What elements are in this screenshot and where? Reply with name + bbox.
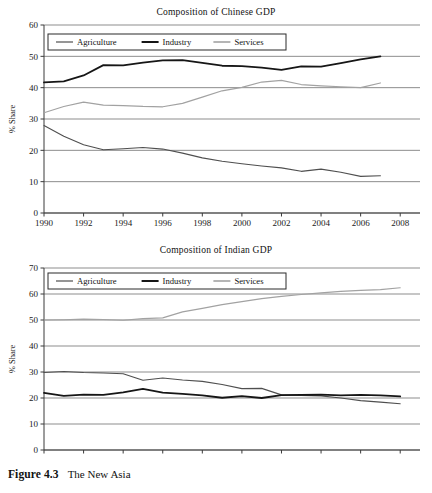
x-tick-label: 1992 — [75, 218, 93, 228]
x-tick-label: 2000 — [233, 218, 252, 228]
series-line-agriculture — [44, 371, 400, 403]
chart-title-china: Composition of Chinese GDP — [0, 7, 432, 17]
series-line-agriculture — [44, 126, 380, 177]
y-tick-label: 10 — [29, 419, 39, 429]
x-tick-label: 1990 — [35, 218, 54, 228]
y-axis-label: % Share — [7, 104, 17, 133]
y-tick-label: 0 — [34, 208, 39, 218]
x-tick-label: 1996 — [154, 218, 173, 228]
y-tick-label: 40 — [29, 341, 39, 351]
series-line-industry — [44, 389, 400, 398]
series-line-industry — [44, 56, 380, 82]
y-tick-label: 70 — [29, 263, 39, 273]
y-tick-label: 30 — [29, 367, 39, 377]
y-tick-label: 50 — [29, 315, 39, 325]
y-tick-label: 60 — [29, 20, 39, 30]
x-tick-label: 2008 — [391, 218, 410, 228]
chart-title-india: Composition of Indian GDP — [0, 245, 432, 255]
y-axis-label: % Share — [7, 344, 17, 373]
figure-caption: Figure 4.3The New Asia — [8, 468, 428, 480]
figure-caption-text: The New Asia — [68, 468, 131, 480]
series-line-services — [44, 288, 400, 321]
y-tick-label: 20 — [29, 393, 39, 403]
legend-label-agriculture: Agriculture — [77, 37, 117, 47]
y-tick-label: 10 — [29, 177, 39, 187]
figure-container: Composition of Chinese GDP 0102030405060… — [0, 0, 432, 493]
legend-label-industry: Industry — [163, 276, 192, 286]
y-tick-label: 30 — [29, 114, 39, 124]
x-tick-label: 2006 — [352, 218, 371, 228]
y-tick-label: 50 — [29, 52, 39, 62]
legend-label-industry: Industry — [163, 37, 192, 47]
y-tick-label: 20 — [29, 146, 39, 156]
x-tick-label: 2004 — [312, 218, 331, 228]
figure-caption-label: Figure 4.3 — [8, 468, 59, 480]
x-tick-label: 1994 — [114, 218, 133, 228]
y-tick-label: 60 — [29, 289, 39, 299]
legend-label-agriculture: Agriculture — [77, 276, 117, 286]
x-tick-label: 1998 — [193, 218, 212, 228]
chart-panel-china: Composition of Chinese GDP 0102030405060… — [0, 0, 432, 240]
series-line-services — [44, 80, 380, 112]
y-tick-label: 0 — [34, 445, 39, 455]
legend-label-services: Services — [234, 276, 264, 286]
y-tick-label: 40 — [29, 83, 39, 93]
legend-label-services: Services — [234, 37, 264, 47]
x-tick-label: 2002 — [272, 218, 290, 228]
chart-svg-china: 0102030405060199019921994199619982000200… — [0, 0, 432, 232]
chart-svg-india: 0102030405060701990199219941996199820002… — [0, 240, 432, 455]
chart-panel-india: Composition of Indian GDP 01020304050607… — [0, 240, 432, 460]
